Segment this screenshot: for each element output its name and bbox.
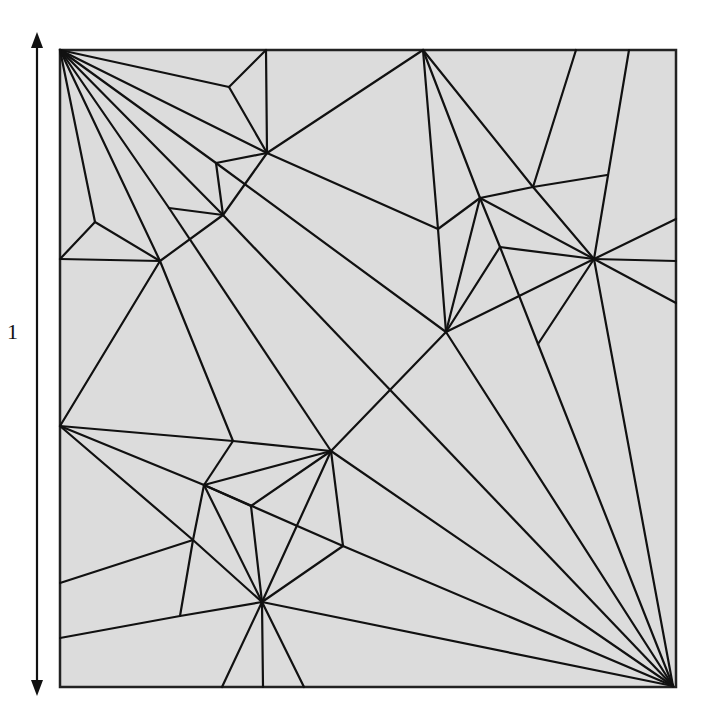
arrow-up-icon	[31, 32, 43, 48]
dimension-label: 1	[7, 319, 18, 344]
dimension-arrow	[31, 32, 43, 696]
arrow-down-icon	[31, 680, 43, 696]
crease-pattern-figure: 1	[0, 0, 708, 718]
crease-line	[262, 602, 263, 687]
crease-line	[266, 50, 267, 153]
